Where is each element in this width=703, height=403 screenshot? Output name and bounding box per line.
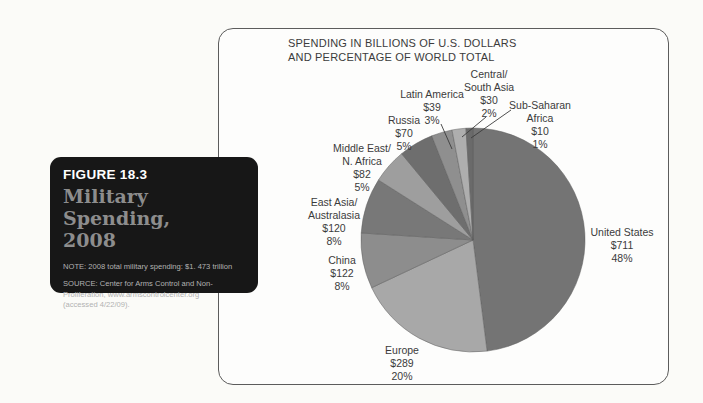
figure-source-line1: SOURCE: Center for Arms Control and Non- [63, 279, 248, 290]
figure-title-line2: 2008 [63, 229, 248, 251]
pie-label-sub-saharan-africa: Sub-SaharanAfrica$101% [509, 99, 571, 151]
chart-title: SPENDING IN BILLIONS OF U.S. DOLLARS AND… [288, 36, 516, 64]
figure-card: FIGURE 18.3 Military Spending, 2008 NOTE… [50, 157, 258, 293]
chart-title-line1: SPENDING IN BILLIONS OF U.S. DOLLARS [288, 36, 516, 50]
figure-source-line2: Proliferation, www.armscontrolcenter.org [63, 290, 248, 301]
page: SPENDING IN BILLIONS OF U.S. DOLLARS AND… [0, 0, 703, 403]
figure-number: FIGURE 18.3 [63, 167, 248, 182]
pie-label-europe: Europe$28920% [385, 344, 419, 383]
figure-source: SOURCE: Center for Arms Control and Non-… [63, 279, 248, 311]
chart-title-line2: AND PERCENTAGE OF WORLD TOTAL [288, 50, 516, 64]
figure-title: Military Spending, 2008 [63, 185, 248, 251]
pie-label-china: China$1228% [328, 254, 355, 293]
pie-label-united-states: United States$71148% [590, 226, 653, 265]
pie-label-middle-east-n-africa: Middle East/N. Africa$825% [333, 142, 391, 194]
figure-title-line1: Military Spending, [63, 185, 248, 229]
pie-label-latin-america: Latin America$393% [400, 88, 464, 127]
pie-label-east-asia-australasia: East Asia/Australasia$1208% [308, 196, 360, 248]
figure-source-line3: (accessed 4/22/09). [63, 300, 248, 311]
figure-note: NOTE: 2008 total military spending: $1. … [63, 262, 248, 272]
chart-panel [218, 28, 669, 385]
pie-label-central-south-asia: Central/South Asia$302% [464, 68, 514, 120]
